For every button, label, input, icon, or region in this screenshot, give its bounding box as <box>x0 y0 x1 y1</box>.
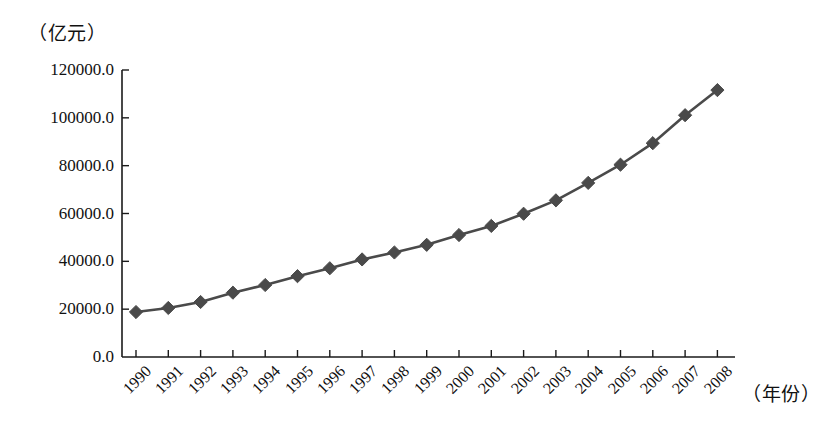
data-point-marker <box>420 238 433 251</box>
data-point-marker <box>162 301 175 314</box>
data-point-marker <box>291 270 304 283</box>
data-point-marker <box>452 228 465 241</box>
data-point-marker <box>517 207 530 220</box>
data-point-marker <box>194 295 207 308</box>
data-point-marker <box>388 246 401 259</box>
line-chart: （亿元） （年份） 0.020000.040000.060000.080000.… <box>0 0 826 424</box>
data-point-marker <box>259 278 272 291</box>
data-point-marker <box>356 253 369 266</box>
data-point-marker <box>549 194 562 207</box>
data-point-marker <box>226 286 239 299</box>
data-point-marker <box>129 305 142 318</box>
data-point-marker <box>485 219 498 232</box>
data-point-marker <box>323 262 336 275</box>
data-point-marker <box>582 176 595 189</box>
data-line <box>136 90 717 312</box>
plot-area <box>0 0 826 424</box>
